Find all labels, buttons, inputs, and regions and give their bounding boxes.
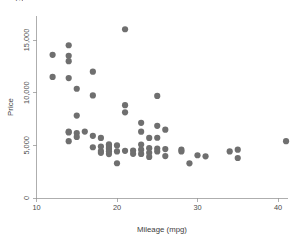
data-point [154, 123, 160, 129]
data-point [74, 86, 80, 92]
data-point [66, 138, 72, 144]
data-point [178, 148, 184, 154]
data-point [66, 42, 72, 48]
data-point [138, 120, 144, 126]
data-point [106, 151, 112, 157]
x-axis-title: Mileage (mpg) [137, 225, 187, 234]
data-point [186, 160, 192, 166]
y-axis-title: Price [6, 98, 15, 116]
data-point [74, 112, 80, 118]
data-point [50, 52, 56, 58]
data-point [138, 129, 144, 135]
data-point [98, 150, 104, 156]
plot-canvas: 05,00010,00015,000 10203040 Price Mileag… [0, 0, 291, 239]
data-point [66, 58, 72, 64]
axes [37, 16, 289, 199]
data-point [154, 148, 160, 154]
data-point [114, 142, 120, 148]
data-point [82, 129, 88, 135]
data-point [66, 53, 72, 59]
data-point [66, 129, 72, 135]
data-point [235, 155, 241, 161]
data-point [194, 152, 200, 158]
data-point [154, 135, 160, 141]
data-point [162, 153, 168, 159]
data-point [122, 109, 128, 115]
data-point [235, 147, 241, 153]
data-point [154, 93, 160, 99]
x-tick-label: 40 [274, 203, 282, 212]
data-point [162, 146, 168, 152]
data-point [114, 148, 120, 154]
y-axis-ticks: 05,00010,00015,000 [22, 29, 37, 200]
data-point [130, 151, 136, 157]
data-point [90, 92, 96, 98]
data-point [162, 127, 168, 133]
y-tick-label: 10,000 [22, 81, 31, 104]
x-tick-label: 20 [113, 203, 121, 212]
data-point [122, 148, 128, 154]
data-point [202, 153, 208, 159]
data-point [98, 135, 104, 141]
scatter-plot-figure: 15 05,00010,00015,000 10203040 Price Mil… [0, 0, 291, 239]
data-point [90, 69, 96, 75]
data-point [90, 133, 96, 139]
data-point [122, 26, 128, 32]
data-point [114, 160, 120, 166]
data-point [90, 144, 96, 150]
y-tick-label: 15,000 [22, 29, 31, 52]
data-point [50, 74, 56, 80]
data-point [146, 154, 152, 160]
x-axis-ticks: 10203040 [32, 198, 282, 212]
data-points-layer [50, 26, 290, 166]
data-point [74, 134, 80, 140]
y-tick-label: 0 [22, 196, 31, 200]
data-point [227, 148, 233, 154]
data-point [283, 138, 289, 144]
data-point [66, 75, 72, 81]
data-point [146, 135, 152, 141]
data-point [122, 102, 128, 108]
data-point [138, 151, 144, 157]
x-tick-label: 30 [193, 203, 201, 212]
y-tick-label: 5,000 [22, 136, 31, 155]
x-tick-label: 10 [32, 203, 40, 212]
